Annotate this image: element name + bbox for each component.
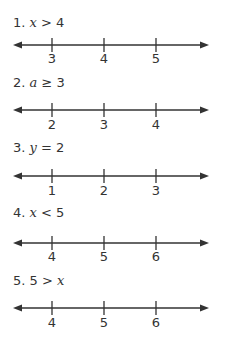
value: 2	[56, 140, 64, 155]
left-arrow-icon	[13, 42, 22, 49]
problem-2-label: 2. a ≥ 3	[13, 75, 65, 91]
right-arrow-icon	[200, 42, 209, 49]
number-line-2	[0, 90, 234, 130]
tick-label: 4	[42, 316, 62, 330]
problem-3-label: 3. y = 2	[13, 140, 64, 156]
right-arrow-icon	[200, 305, 209, 312]
problem-5-label: 5. 5 > x	[13, 273, 64, 289]
problem-number: 5.	[13, 273, 25, 288]
left-arrow-icon	[13, 107, 22, 114]
number-line-1	[0, 25, 234, 65]
right-arrow-icon	[200, 173, 209, 180]
variable: a	[30, 75, 38, 90]
left-arrow-icon	[13, 240, 22, 247]
right-arrow-icon	[200, 107, 209, 114]
number-line-3	[0, 156, 234, 196]
tick-label: 5	[94, 250, 114, 264]
tick-label: 4	[146, 118, 166, 132]
right-arrow-icon	[200, 240, 209, 247]
value: 3	[57, 75, 65, 90]
left-arrow-icon	[13, 173, 22, 180]
tick-label: 3	[42, 52, 62, 66]
variable: y	[30, 140, 37, 155]
problem-number: 2.	[13, 75, 25, 90]
operator: <	[41, 205, 52, 220]
value: 5	[30, 273, 38, 288]
tick-label: 6	[146, 250, 166, 264]
tick-label: 2	[94, 184, 114, 198]
operator: >	[42, 273, 53, 288]
problem-number: 3.	[13, 140, 25, 155]
tick-label: 4	[94, 52, 114, 66]
value: 5	[56, 205, 64, 220]
tick-label: 1	[42, 184, 62, 198]
number-line-5	[0, 288, 234, 328]
problem-number: 4.	[13, 205, 25, 220]
number-line-4	[0, 223, 234, 263]
tick-label: 6	[146, 316, 166, 330]
tick-label: 4	[42, 250, 62, 264]
variable: x	[57, 273, 64, 288]
problem-4-label: 4. x < 5	[13, 205, 64, 221]
tick-label: 5	[146, 52, 166, 66]
operator: =	[41, 140, 52, 155]
tick-label: 3	[94, 118, 114, 132]
tick-label: 2	[42, 118, 62, 132]
tick-label: 5	[94, 316, 114, 330]
variable: x	[30, 205, 37, 220]
operator: ≥	[41, 75, 52, 90]
tick-label: 3	[146, 184, 166, 198]
left-arrow-icon	[13, 305, 22, 312]
